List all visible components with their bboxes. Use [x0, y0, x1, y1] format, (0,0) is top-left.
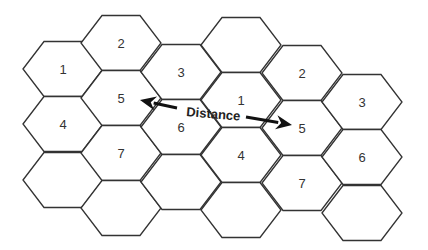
cell-label: 6 — [177, 120, 184, 135]
cell-label: 3 — [358, 95, 365, 110]
cell-label: 7 — [298, 176, 305, 191]
hexagonal-cell-diagram: 14257361425736 Distance — [0, 0, 428, 250]
hex-cell-grid: 14257361425736 — [23, 16, 402, 241]
cell-label: 2 — [298, 66, 305, 81]
cell-label: 1 — [237, 93, 244, 108]
cell-label: 5 — [298, 121, 305, 136]
cell-label: 7 — [117, 146, 124, 161]
cell-label: 4 — [59, 117, 66, 132]
cell-label: 6 — [358, 150, 365, 165]
cell-label: 1 — [59, 62, 66, 77]
cell-label: 5 — [117, 91, 124, 106]
cell-label: 2 — [117, 36, 124, 51]
cell-label: 3 — [177, 65, 184, 80]
cell-label: 4 — [237, 148, 244, 163]
